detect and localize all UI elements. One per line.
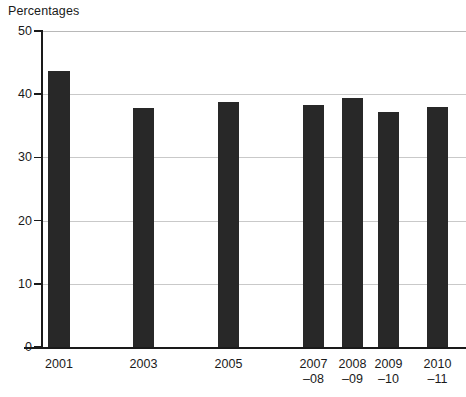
y-axis-tick-label: 10 <box>0 277 32 291</box>
bar <box>133 108 154 347</box>
bar <box>427 107 448 347</box>
gridline-50 <box>41 31 466 32</box>
x-label-line-1: 2007 <box>300 357 328 371</box>
x-label-line-2: –09 <box>339 372 367 387</box>
x-label-line-1: 2005 <box>215 357 243 371</box>
x-label-line-1: 2003 <box>130 357 158 371</box>
bar <box>342 98 363 347</box>
x-label-line-2: –08 <box>300 372 328 387</box>
bar <box>48 71 70 347</box>
gridline-10 <box>41 284 466 285</box>
x-axis-tick-label: 2010–11 <box>424 357 452 387</box>
y-axis-line <box>41 30 43 348</box>
y-tick-40 <box>34 93 41 95</box>
bar-chart: Percentages 01020304050 2001200320052007… <box>0 0 466 397</box>
y-axis-tick-label: 0 <box>0 340 32 354</box>
x-label-line-1: 2009 <box>375 357 403 371</box>
y-axis-tick-label: 50 <box>0 24 32 38</box>
x-label-line-1: 2008 <box>339 357 367 371</box>
y-tick-20 <box>34 220 41 222</box>
x-axis-tick-label: 2001 <box>45 357 73 372</box>
y-axis-tick-label: 40 <box>0 87 32 101</box>
gridline-30 <box>41 157 466 158</box>
x-axis-tick-label: 2007–08 <box>300 357 328 387</box>
y-axis-tick-label: 20 <box>0 214 32 228</box>
y-axis-labels: 01020304050 <box>0 0 32 397</box>
x-axis-baseline <box>24 347 466 349</box>
gridline-40 <box>41 94 466 95</box>
x-label-line-2: –11 <box>424 372 452 387</box>
y-tick-0 <box>34 346 41 348</box>
x-axis-tick-label: 2003 <box>130 357 158 372</box>
x-label-line-2: –10 <box>375 372 403 387</box>
y-tick-30 <box>34 157 41 159</box>
y-tick-50 <box>34 30 41 32</box>
x-label-line-1: 2001 <box>45 357 73 371</box>
y-tick-10 <box>34 283 41 285</box>
bar <box>378 112 399 347</box>
x-label-line-1: 2010 <box>424 357 452 371</box>
bar <box>303 105 324 347</box>
y-axis-tick-label: 30 <box>0 150 32 164</box>
x-axis-tick-label: 2008–09 <box>339 357 367 387</box>
x-axis-tick-label: 2005 <box>215 357 243 372</box>
bar <box>218 102 239 347</box>
gridline-20 <box>41 221 466 222</box>
x-axis-tick-label: 2009–10 <box>375 357 403 387</box>
plot-area <box>41 31 466 347</box>
